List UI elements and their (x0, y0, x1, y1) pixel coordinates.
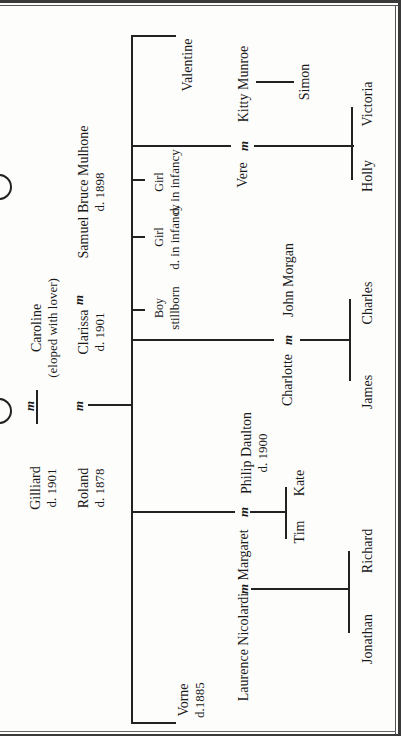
marriage-symbol: m (236, 141, 252, 151)
marriage-line (88, 404, 133, 406)
marriage-symbol: m (71, 401, 87, 411)
branch-vere (131, 145, 231, 147)
branch-charlotte (131, 339, 274, 341)
children-bar (349, 299, 351, 381)
frame-border-right-inner (395, 5, 396, 736)
frame-border-top-inner (0, 5, 401, 6)
person-boy-stillborn: Boy stillborn (151, 286, 183, 329)
children-bar (351, 107, 353, 180)
person-clarissa: Clarissa d. 1901 (76, 309, 108, 354)
branch-girl-1 (131, 236, 145, 238)
children-bar (285, 487, 287, 539)
person-richard: Richard (360, 529, 376, 573)
person-john-morgan: John Morgan (281, 243, 297, 317)
person-victoria: Victoria (360, 81, 376, 126)
person-james: James (360, 375, 376, 409)
person-roland: Roland d. 1878 (76, 468, 108, 508)
person-vorne: Vorne d.1885 (176, 682, 208, 718)
marriage-line (300, 339, 350, 341)
marriage-line (250, 511, 286, 513)
marriage-symbol: m (236, 584, 252, 594)
branch-margaret (131, 511, 235, 513)
branch-boy (131, 309, 145, 311)
children-bar (348, 551, 350, 633)
branch-girl-2 (131, 179, 145, 181)
person-jonathan: Jonathan (360, 614, 376, 664)
frame-border-top (0, 0, 401, 3)
branch-valentine (131, 35, 176, 37)
branch-vorne (131, 722, 176, 724)
person-valentine: Valentine (180, 39, 196, 92)
person-samuel-bruce-mulhone: Samuel Bruce Mulhone d. 1898 (76, 126, 108, 259)
person-laurence-nicolardi: Laurence Nicolardi (236, 593, 252, 701)
sibling-spine (131, 35, 133, 724)
person-simon: Simon (297, 64, 313, 101)
person-caroline: Caroline (eloped with lover) (29, 278, 61, 378)
connector-line (36, 390, 38, 424)
person-philip-daulton: Philip Daulton d. 1900 (239, 412, 271, 494)
person-vere: Vere (235, 162, 251, 188)
person-kate: Kate (292, 470, 308, 496)
marriage-symbol: m (71, 295, 87, 305)
marriage-line (254, 145, 354, 147)
person-charles: Charles (360, 282, 376, 325)
decorative-arc-lower (0, 398, 12, 424)
person-margaret: Margaret (236, 529, 252, 580)
marriage-symbol: m (280, 335, 296, 345)
marriage-line (251, 588, 349, 590)
person-charlotte: Charlotte (280, 354, 296, 406)
person-girl-2: Girl d. in infancy (151, 149, 183, 214)
person-tim: Tim (292, 521, 308, 544)
person-gilliard: Gilliard d. 1901 (28, 466, 60, 510)
person-holly: Holly (360, 160, 376, 192)
family-tree-diagram: Gilliard d. 1901 m Caroline (eloped with… (0, 0, 401, 736)
frame-border-bottom-inner (0, 731, 396, 732)
branch-simon (256, 81, 294, 83)
person-kitty-munroe: Kitty Munroe (236, 46, 252, 123)
decorative-arc-upper (0, 174, 12, 200)
